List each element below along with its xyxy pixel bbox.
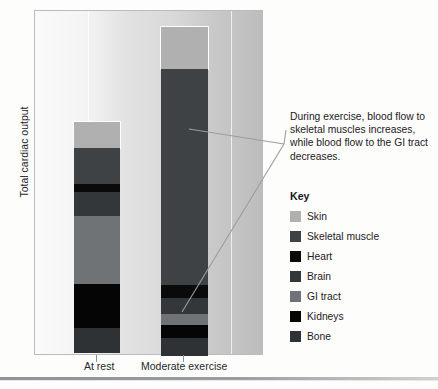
legend-swatch-heart <box>290 251 301 262</box>
segment-skeletal-muscle <box>74 148 120 184</box>
bar-at-rest[interactable] <box>74 122 120 353</box>
y-axis-label: Total cardiac output <box>18 92 30 212</box>
legend-item-gi-tract[interactable]: GI tract <box>290 290 435 302</box>
segment-skin <box>74 122 120 148</box>
legend-label-skeletal-muscle: Skeletal muscle <box>307 231 379 242</box>
segment-skeletal-muscle <box>161 69 208 285</box>
legend-swatch-gi-tract <box>290 291 301 302</box>
legend-label-gi-tract: GI tract <box>307 291 341 302</box>
footer-rule-highlight <box>0 380 438 381</box>
segment-brain <box>161 298 208 314</box>
legend-item-bone[interactable]: Bone <box>290 330 435 342</box>
legend-label-heart: Heart <box>307 251 332 262</box>
legend-title: Key <box>290 190 435 202</box>
annotation-text: During exercise, blood flow to skeletal … <box>290 110 430 163</box>
legend-swatch-brain <box>290 271 301 282</box>
legend-item-skeletal-muscle[interactable]: Skeletal muscle <box>290 230 435 242</box>
stacked-bar-figure: Total cardiac output At rest Moderate ex… <box>0 0 438 389</box>
legend-swatch-skeletal-muscle <box>290 231 301 242</box>
legend-label-brain: Brain <box>307 271 331 282</box>
segment-heart <box>161 285 208 298</box>
legend-item-kidneys[interactable]: Kidneys <box>290 310 435 322</box>
segment-gi-tract <box>74 216 120 284</box>
legend: Key Skin Skeletal muscle Heart Brain GI … <box>290 190 435 350</box>
legend-item-brain[interactable]: Brain <box>290 270 435 282</box>
legend-swatch-kidneys <box>290 311 301 322</box>
bar-moderate-exercise[interactable] <box>161 27 208 356</box>
legend-label-bone: Bone <box>307 331 331 342</box>
segment-bone <box>74 328 120 353</box>
segment-brain <box>74 192 120 216</box>
segment-gi-tract <box>161 314 208 325</box>
segment-skin <box>161 27 208 69</box>
legend-swatch-bone <box>290 331 301 342</box>
legend-swatch-skin <box>290 211 301 222</box>
plot-vertical-rule <box>231 11 232 354</box>
segment-heart <box>74 184 120 192</box>
segment-bone <box>161 338 208 356</box>
segment-kidneys <box>74 284 120 328</box>
segment-kidneys <box>161 325 208 338</box>
legend-label-skin: Skin <box>307 211 327 222</box>
legend-label-kidneys: Kidneys <box>307 311 344 322</box>
category-label-moderate-exercise: Moderate exercise <box>141 360 227 372</box>
category-label-at-rest: At rest <box>84 360 114 372</box>
legend-item-skin[interactable]: Skin <box>290 210 435 222</box>
legend-item-heart[interactable]: Heart <box>290 250 435 262</box>
chart-plot-area <box>34 10 263 355</box>
